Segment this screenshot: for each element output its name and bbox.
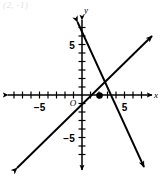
y-tick-label-negative-five: −5 — [63, 133, 75, 144]
y-tick-label-positive-five: 5 — [69, 40, 75, 51]
coordinate-plane-graph: x −5 5 y — [0, 0, 167, 176]
x-tick-label-negative-five: −5 — [34, 102, 46, 113]
origin-label: O — [70, 98, 77, 108]
intersection-point-marker — [96, 92, 103, 99]
y-axis-label: y — [83, 5, 88, 15]
y-axis: y 5 −5 O — [63, 5, 88, 170]
x-axis-label: x — [153, 90, 158, 100]
graph-figure: (2, -1) — [0, 0, 167, 176]
x-tick-label-positive-five: 5 — [122, 102, 128, 113]
x-axis: x −5 5 — [8, 90, 158, 113]
